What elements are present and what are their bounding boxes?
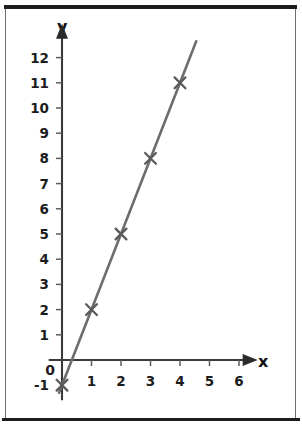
- y-tick-label: 6: [40, 201, 49, 217]
- x-tick-label: 2: [116, 373, 125, 389]
- x-tick-labels: 123456: [87, 373, 244, 389]
- x-tick-label: 1: [87, 373, 96, 389]
- origin-label: 0: [45, 362, 55, 378]
- line-chart: y x 0 123456789101112-1 123456: [0, 0, 302, 426]
- x-tick-label: 3: [146, 373, 155, 389]
- data-point-marker: [86, 304, 97, 315]
- x-tick-label: 5: [205, 373, 214, 389]
- y-tick-label: 10: [30, 100, 49, 116]
- data-point-marker: [145, 153, 156, 164]
- y-tick-labels: 123456789101112-1: [30, 50, 49, 394]
- x-axis-arrowhead: [243, 354, 258, 366]
- data-point-marker: [175, 77, 186, 88]
- y-tick-label: 5: [40, 226, 49, 242]
- y-tick-label: 8: [40, 150, 49, 166]
- y-tick-label: 3: [40, 276, 49, 292]
- y-tick-label: 11: [30, 75, 49, 91]
- data-point-marker: [116, 229, 127, 240]
- data-series-line: [59, 41, 196, 393]
- y-tick-label: 7: [40, 176, 49, 192]
- y-tick-label: 2: [40, 302, 49, 318]
- y-tick-label: 9: [40, 125, 49, 141]
- y-tick-label: 1: [40, 327, 49, 343]
- y-tick-label-negative: -1: [34, 377, 49, 393]
- axes: [49, 24, 258, 400]
- figure-page: y x 0 123456789101112-1 123456: [0, 0, 302, 426]
- x-tick-label: 4: [175, 373, 184, 389]
- axis-ticks: [56, 58, 239, 366]
- x-axis-label: x: [258, 352, 269, 371]
- y-tick-label: 12: [30, 50, 49, 66]
- series-line-segment: [59, 41, 196, 393]
- data-point-markers: [57, 77, 186, 390]
- x-tick-label: 6: [234, 373, 243, 389]
- y-tick-label: 4: [40, 251, 49, 267]
